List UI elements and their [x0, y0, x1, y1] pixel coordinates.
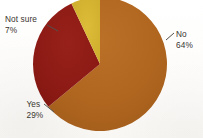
pie-label-not-sure: Not sure 7%: [5, 14, 37, 35]
leader-line-no: [166, 33, 174, 40]
pie-label-yes-name: Yes: [26, 99, 43, 110]
pie-label-no-percent: 64%: [176, 40, 193, 51]
pie-label-no: No 64%: [176, 29, 193, 50]
pie-label-not-sure-percent: 7%: [5, 25, 37, 36]
pie-label-yes-percent: 29%: [26, 110, 43, 121]
pie-label-yes: Yes 29%: [26, 99, 43, 120]
pie-label-not-sure-name: Not sure: [5, 14, 37, 25]
pie-chart-screenshot: No 64% Not sure 7% Yes 29%: [0, 0, 203, 138]
pie-label-no-name: No: [176, 29, 193, 40]
